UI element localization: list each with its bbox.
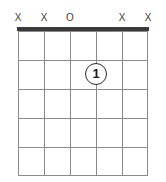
string-marker-3: O: [63, 13, 77, 23]
string-marker-6: X: [141, 13, 155, 23]
fret-line-3: [18, 118, 148, 119]
fret-line-4: [18, 147, 148, 148]
finger-dot-string4-fret2: 1: [85, 63, 107, 85]
string-line-2: [44, 31, 45, 176]
fret-line-2: [18, 89, 148, 90]
chord-diagram: X X O X X 1: [0, 0, 166, 182]
string-marker-2: X: [37, 13, 51, 23]
string-line-1: [18, 31, 19, 176]
fretboard: 1: [18, 31, 148, 176]
string-line-5: [122, 31, 123, 176]
string-marker-1: X: [11, 13, 25, 23]
string-marker-5: X: [115, 13, 129, 23]
fret-line-1: [18, 60, 148, 61]
fret-line-5: [18, 175, 148, 176]
fret-line-0: [18, 31, 148, 32]
string-line-6: [147, 31, 148, 176]
string-line-4: [96, 31, 97, 176]
string-line-3: [70, 31, 71, 176]
